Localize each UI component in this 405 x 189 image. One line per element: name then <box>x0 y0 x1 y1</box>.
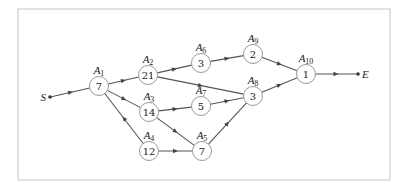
node-a9: 2A9 <box>244 32 263 64</box>
node-a8: 3A8 <box>244 74 263 106</box>
terminal-label: E <box>361 68 369 80</box>
terminal-dot <box>48 95 52 99</box>
node-duration: 7 <box>96 81 102 92</box>
node-a4: 12A4 <box>140 129 159 161</box>
arrow-icon <box>224 99 229 103</box>
node-duration: 2 <box>250 49 256 60</box>
node-label: A8 <box>247 74 259 88</box>
node-a3: 14A3 <box>140 90 159 122</box>
node-duration: 3 <box>198 58 204 69</box>
node-label: A2 <box>142 53 154 67</box>
arrow-icon <box>224 57 229 61</box>
terminal-s: S <box>41 91 52 103</box>
node-duration: 12 <box>143 146 156 157</box>
node-a10: 1A10 <box>297 52 316 84</box>
node-label: A7 <box>195 84 207 98</box>
node-duration: 1 <box>303 69 309 80</box>
arrow-icon <box>173 149 178 153</box>
arrow-icon <box>276 61 281 65</box>
node-label: A10 <box>298 52 314 66</box>
arrow-icon <box>121 79 126 83</box>
activity-network-diagram: 7A121A214A312A47A53A65A73A82A91A10 SE <box>0 0 405 189</box>
arrow-icon <box>68 91 73 95</box>
node-duration: 7 <box>199 146 205 157</box>
terminal-e: E <box>356 68 369 80</box>
node-a6: 3A6 <box>192 41 211 73</box>
node-label: A4 <box>143 129 155 143</box>
node-a7: 5A7 <box>192 84 211 116</box>
node-label: A1 <box>93 64 105 78</box>
arrow-icon <box>334 72 339 76</box>
node-label: A9 <box>247 32 259 46</box>
node-duration: 21 <box>142 70 155 81</box>
node-label: A3 <box>143 90 155 104</box>
node-duration: 14 <box>143 107 156 118</box>
node-label: A5 <box>196 129 208 143</box>
terminal-label: S <box>41 91 47 103</box>
node-a2: 21A2 <box>139 53 158 85</box>
node-a5: 7A5 <box>193 129 212 161</box>
arrow-icon <box>172 128 177 133</box>
terminal-dot <box>356 72 360 76</box>
node-duration: 3 <box>250 91 256 102</box>
arrow-icon <box>172 67 177 71</box>
node-a1: 7A1 <box>90 64 109 96</box>
nodes-layer: 7A121A214A312A47A53A65A73A82A91A10 <box>90 32 316 161</box>
node-duration: 5 <box>198 101 204 112</box>
node-label: A6 <box>195 41 207 55</box>
